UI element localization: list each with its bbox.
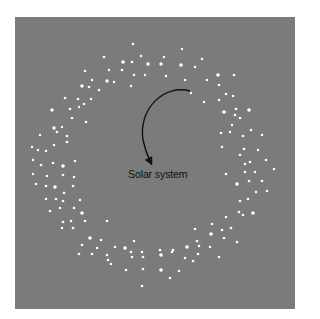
star-dot	[53, 144, 56, 147]
star-dot	[114, 246, 117, 249]
star-dot	[190, 92, 192, 94]
star-dot	[88, 236, 92, 240]
star-dot	[63, 192, 66, 195]
star-dot	[62, 200, 65, 203]
star-dot	[163, 56, 165, 58]
star-dot	[80, 211, 84, 215]
star-dot	[142, 256, 145, 259]
star-dot	[31, 146, 33, 148]
star-dot	[239, 200, 242, 203]
star-dot	[77, 98, 80, 101]
star-dot	[45, 198, 48, 201]
star-dot	[261, 134, 264, 137]
star-dot	[49, 210, 52, 213]
star-dot	[218, 256, 221, 259]
star-dot	[171, 251, 174, 254]
star-dot	[131, 256, 134, 259]
star-dot	[211, 223, 214, 226]
star-dot	[66, 135, 69, 138]
star-dot	[239, 117, 242, 120]
star-dot	[198, 245, 201, 248]
star-dot	[61, 227, 64, 230]
star-dot	[206, 79, 209, 82]
star-dot	[52, 162, 55, 165]
star-dot	[235, 108, 238, 111]
star-dot	[62, 174, 65, 177]
star-dot	[32, 173, 34, 175]
star-dot	[243, 148, 246, 151]
star-dot	[255, 191, 258, 194]
star-dot	[69, 108, 72, 111]
star-dot	[45, 150, 48, 153]
star-dot	[62, 221, 65, 224]
star-dot	[242, 135, 245, 138]
star-dot	[105, 79, 108, 82]
star-dot	[85, 121, 88, 124]
star-dot	[113, 81, 115, 83]
star-dot	[130, 85, 132, 87]
star-dot	[84, 220, 87, 223]
star-dot	[96, 247, 99, 250]
star-dot	[221, 146, 223, 148]
star-dot	[55, 198, 58, 201]
arrow-icon	[142, 90, 190, 163]
star-dot	[159, 62, 162, 65]
star-dot	[218, 99, 221, 102]
star-dot	[61, 164, 65, 168]
star-dot	[52, 126, 55, 129]
star-dot	[181, 48, 183, 50]
star-dot	[141, 285, 144, 288]
star-dot	[249, 161, 252, 164]
star-dot	[79, 199, 82, 202]
star-dot	[80, 84, 83, 87]
star-dot	[133, 74, 135, 76]
star-dot	[72, 227, 75, 230]
star-dot	[121, 60, 125, 64]
star-dot	[103, 56, 106, 59]
star-dot	[266, 190, 269, 193]
star-dot	[46, 175, 49, 178]
star-dot	[132, 43, 135, 46]
star-dot	[225, 216, 228, 219]
star-dot	[32, 159, 34, 161]
star-dot	[221, 229, 224, 232]
star-dot	[230, 227, 233, 230]
star-dot	[106, 254, 109, 257]
star-dot	[248, 180, 251, 183]
star-dot	[229, 131, 231, 133]
stars-group	[31, 43, 276, 288]
star-dot	[125, 269, 128, 272]
star-dot	[251, 211, 255, 215]
star-dot	[222, 110, 226, 114]
star-dot	[196, 240, 199, 243]
star-dot	[244, 171, 247, 174]
star-dot	[81, 244, 84, 247]
star-dot	[194, 228, 197, 231]
star-dot	[73, 176, 76, 179]
star-dot	[83, 103, 86, 106]
star-dot	[90, 98, 92, 100]
star-dot	[73, 207, 76, 210]
star-dot	[250, 129, 253, 132]
star-dot	[209, 232, 213, 236]
star-dot	[45, 185, 48, 188]
star-dot	[64, 97, 67, 100]
star-dot	[159, 268, 163, 272]
star-dot	[121, 69, 124, 72]
star-dot	[265, 159, 268, 162]
star-dot	[146, 62, 149, 65]
star-dot	[84, 70, 87, 73]
star-dot	[78, 253, 81, 256]
star-dot	[234, 114, 237, 117]
star-dot	[98, 89, 101, 92]
star-dot	[165, 75, 167, 77]
star-dot	[185, 245, 189, 249]
star-dot	[254, 171, 256, 173]
star-dot	[66, 141, 69, 144]
star-dot	[39, 134, 41, 136]
star-dot	[71, 117, 74, 120]
star-dot	[236, 241, 239, 244]
star-dot	[141, 251, 144, 254]
star-dot	[72, 185, 75, 188]
star-dot	[201, 58, 203, 60]
